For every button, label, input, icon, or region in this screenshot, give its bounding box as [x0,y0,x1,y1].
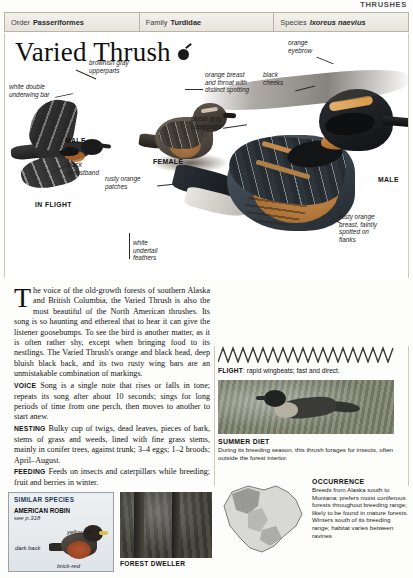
label-brownish-gray-upperparts: brownish gray upperparts [89,59,157,74]
leader-line-orange-breast [185,89,203,90]
american-robin-illustration [55,519,111,567]
occurrence-heading: OCCURRENCE [312,478,408,485]
range-map-icon [218,480,310,558]
robin-bill [99,531,108,535]
caption-male-perched: MALE [378,176,399,183]
forest-dweller-caption: FOREST DWELLER [120,560,185,567]
intro-paragraph: The voice of the old-growth forests of s… [14,286,210,380]
intro-text: he voice of the old-growth forests of so… [14,286,210,378]
running-head: THRUSHES [360,0,407,9]
taxonomy-order: Order Passeriformes [5,13,140,31]
caption-in-flight: IN FLIGHT [35,201,72,208]
summer-diet-text: During its breeding season, this thrush … [218,446,394,461]
field-guide-page: THRUSHES Order Passeriformes Family Turd… [0,0,413,578]
forest-dweller-photo [120,492,212,558]
forest-trunk-left [134,492,144,558]
section-feeding-label: FEEDING [14,468,46,475]
illustration-plate: Varied Thrush [4,33,409,278]
right-margin-rule [408,346,409,486]
leader-line-eyebrow [316,57,333,65]
section-voice-text: Song is a single note that rises or fall… [14,381,210,421]
flight-description: FLIGHT: rapid wingbeats; fast and direct… [218,367,408,374]
similar-species-title: SIMILAR SPECIES [9,493,113,503]
taxonomy-order-label: Order [11,18,30,27]
label-yellow-bill: yellow bill [67,529,92,536]
caption-male-flight: MALE [65,137,86,144]
taxonomy-family-value: Turdidae [170,18,201,27]
section-feeding: FEEDING Feeds on insects and caterpillar… [14,467,210,488]
taxonomy-species-value: Ixoreus naevius [310,18,366,27]
section-nesting-label: NESTING [14,425,46,432]
section-voice-label: VOICE [14,382,36,389]
forest-trunk-right [172,492,180,558]
label-white-undertail-feathers: white undertail feathers [133,239,177,262]
taxonomy-family-label: Family [146,18,168,27]
male-symbol-icon [178,49,189,60]
label-brick-red: brick-red [57,563,80,570]
section-voice: VOICE Song is a single note that rises o… [14,381,210,423]
range-map [218,480,310,558]
right-column: FLIGHT: rapid wingbeats; fast and direct… [218,346,408,461]
taxonomy-family: Family Turdidae [140,13,275,31]
occurrence-block: OCCURRENCE Breeds from Alaska south to M… [312,478,408,539]
label-dark-back: dark back [15,545,41,552]
label-white-double-underwing-bar: white double underwing bar [9,83,71,98]
taxonomy-order-value: Passeriformes [33,18,84,27]
label-rusty-orange-breast: rusty orange breast, faintly spotted on … [339,213,405,243]
label-black-cheeks: black cheeks [263,71,303,86]
label-orange-eyebrow: orange eyebrow [288,39,338,54]
column-divider [214,346,215,486]
flight-pattern-icon [218,346,394,363]
caption-female: FEMALE [153,158,183,165]
leader-line-undertail [129,233,130,259]
photo-bird-head [264,390,286,407]
male-bird-illustration [201,75,409,275]
robin-breast [67,541,91,559]
similar-species-box: SIMILAR SPECIES AMERICAN ROBIN see p.318… [8,492,114,572]
main-text-column: The voice of the old-growth forests of s… [14,286,210,490]
label-black-breastband: black breastband [67,161,117,176]
similar-species-name: AMERICAN ROBIN [9,503,113,514]
taxonomy-species-label: Species [280,18,306,27]
taxonomy-bar: Order Passeriformes Family Turdidae Spec… [4,12,409,32]
drop-cap: T [14,286,33,309]
flight-label: FLIGHT [218,367,243,374]
section-nesting: NESTING Bulky cup of twigs, dead leaves,… [14,424,210,466]
label-rusty-orange-patches: rusty orange patches [105,175,161,190]
flight-text: rapid wingbeats; fast and direct. [247,367,340,374]
photo-bird-beak [256,396,267,400]
summer-diet-heading: SUMMER DIET [218,438,408,445]
occurrence-text: Breeds from Alaska south to Montana; pre… [312,486,408,539]
label-bluish-gray-upperparts: bluish gray upperparts [191,115,251,130]
taxonomy-species: Species Ixoreus naevius [274,13,408,31]
summer-diet-photo [218,380,394,434]
